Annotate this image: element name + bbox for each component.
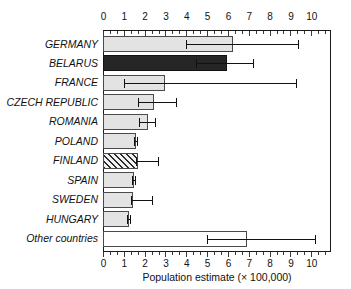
top-axis-minor-tick (318, 31, 319, 34)
bottom-axis-minor-tick (263, 252, 264, 255)
bottom-axis-minor-tick (172, 252, 173, 255)
top-axis-minor-tick (110, 31, 111, 34)
top-axis-minor-tick (325, 31, 326, 34)
top-axis-minor-tick (235, 31, 236, 34)
top-axis-minor-tick (221, 31, 222, 34)
top-axis-major-tick (249, 31, 250, 36)
error-bar-cap (138, 98, 139, 107)
bottom-axis-major-tick (249, 252, 250, 257)
bottom-axis-minor-tick (159, 252, 160, 255)
category-label: GERMANY (0, 38, 102, 50)
category-label: BELARUS (0, 57, 102, 69)
error-bar (124, 83, 296, 84)
category-label: CZECH REPUBLIC (0, 96, 102, 108)
bottom-axis-major-tick (165, 252, 166, 257)
error-bar-cap (315, 235, 316, 244)
error-bar-cap (127, 215, 128, 224)
bottom-axis-minor-tick (214, 252, 215, 255)
top-axis-major-tick (290, 31, 291, 36)
error-bar-cap (176, 98, 177, 107)
top-axis-minor-tick (256, 31, 257, 34)
top-axis-minor-tick (200, 31, 201, 34)
error-bar (140, 122, 156, 123)
bottom-axis-minor-tick (117, 252, 118, 255)
bottom-axis-minor-tick (256, 252, 257, 255)
bar (103, 192, 133, 208)
top-axis-major-tick (165, 31, 166, 36)
bottom-axis-minor-tick (283, 252, 284, 255)
error-bar-cap (296, 79, 297, 88)
bar (103, 153, 138, 169)
top-axis-minor-tick (283, 31, 284, 34)
error-bar-cap (158, 157, 159, 166)
top-axis-minor-tick (179, 31, 180, 34)
top-axis-tick-label: 10 (299, 11, 325, 22)
bottom-axis-major-tick (270, 252, 271, 257)
bottom-axis-minor-tick (235, 252, 236, 255)
bottom-axis-minor-tick (304, 252, 305, 255)
top-axis-minor-tick (159, 31, 160, 34)
error-bar (196, 63, 253, 64)
bottom-axis-minor-tick (325, 252, 326, 255)
top-axis-minor-tick (214, 31, 215, 34)
bottom-axis-major-tick (228, 252, 229, 257)
bottom-axis-major-tick (186, 252, 187, 257)
error-bar-cap (124, 79, 125, 88)
bar (103, 133, 136, 149)
bottom-axis-major-tick (145, 252, 146, 257)
bottom-axis-minor-tick (242, 252, 243, 255)
bottom-axis-major-tick (103, 252, 104, 257)
bottom-axis-minor-tick (179, 252, 180, 255)
error-bar-cap (298, 40, 299, 49)
bottom-axis-minor-tick (277, 252, 278, 255)
top-axis-major-tick (311, 31, 312, 36)
bottom-axis-minor-tick (200, 252, 201, 255)
error-bar-cap (196, 59, 197, 68)
bottom-axis-minor-tick (221, 252, 222, 255)
bar (103, 211, 129, 227)
category-label: SPAIN (0, 174, 102, 186)
top-axis-major-tick (186, 31, 187, 36)
category-label: SWEDEN (0, 193, 102, 205)
bottom-axis-minor-tick (131, 252, 132, 255)
bottom-axis-minor-tick (193, 252, 194, 255)
top-axis-minor-tick (138, 31, 139, 34)
error-bar-cap (186, 40, 187, 49)
error-bar-cap (130, 215, 131, 224)
error-bar-cap (134, 137, 135, 146)
error-bar-cap (253, 59, 254, 68)
top-axis-major-tick (103, 31, 104, 36)
error-bar-cap (131, 196, 132, 205)
bottom-axis-major-tick (207, 252, 208, 257)
top-axis-minor-tick (304, 31, 305, 34)
bottom-axis-minor-tick (110, 252, 111, 255)
category-label: ROMANIA (0, 115, 102, 127)
bottom-axis-minor-tick (152, 252, 153, 255)
top-axis-minor-tick (131, 31, 132, 34)
top-axis-major-tick (124, 31, 125, 36)
top-axis-major-tick (145, 31, 146, 36)
top-axis-minor-tick (263, 31, 264, 34)
bottom-axis-minor-tick (297, 252, 298, 255)
top-axis-major-tick (270, 31, 271, 36)
error-bar (132, 200, 153, 201)
error-bar (139, 102, 176, 103)
bar-chart: GERMANYBELARUSFRANCECZECH REPUBLICROMANI… (0, 0, 351, 289)
bottom-axis-minor-tick (138, 252, 139, 255)
error-bar-cap (132, 176, 133, 185)
bar (103, 172, 134, 188)
error-bar-cap (137, 137, 138, 146)
error-bar (137, 161, 159, 162)
top-axis-minor-tick (277, 31, 278, 34)
x-axis-title: Population estimate (× 100,000) (104, 271, 331, 283)
top-axis-minor-tick (172, 31, 173, 34)
bottom-axis-major-tick (311, 252, 312, 257)
category-label: FINLAND (0, 154, 102, 166)
error-bar-cap (152, 196, 153, 205)
top-axis-major-tick (207, 31, 208, 36)
top-axis-minor-tick (117, 31, 118, 34)
bottom-axis-major-tick (290, 252, 291, 257)
error-bar (208, 239, 316, 240)
top-axis-minor-tick (242, 31, 243, 34)
top-axis-minor-tick (297, 31, 298, 34)
